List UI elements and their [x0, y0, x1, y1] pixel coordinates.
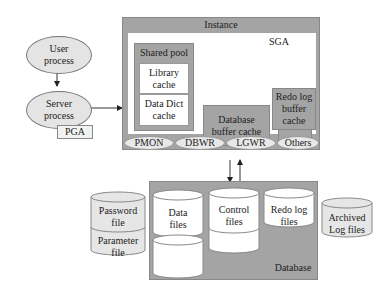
data-files-label: Data files: [153, 207, 203, 231]
archived-log-files-label: Archived Log files: [322, 212, 372, 236]
parameter-file-label: Parameter file: [91, 235, 145, 259]
database-cylinders: [0, 0, 392, 295]
redo-log-files-label: Redo log files: [264, 204, 314, 228]
control-files-label: Control files: [209, 204, 259, 228]
password-file-label: Password file: [91, 205, 145, 229]
data-files-cylinder: [153, 190, 203, 278]
